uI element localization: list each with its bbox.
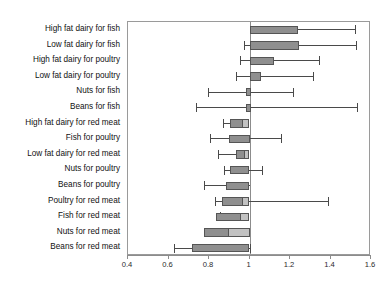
x-axis-tick-label: 0.8 [203, 260, 214, 269]
ci-lower-cap [244, 41, 245, 50]
y-axis-label: Beans for poultry [58, 177, 120, 193]
x-axis-tick-label: 1 [246, 260, 250, 269]
ci-lower-cap [208, 88, 209, 97]
forest-plot-row [128, 84, 369, 100]
ci-upper-cap [293, 88, 294, 97]
forest-plot-row [128, 100, 369, 116]
effect-bar-inner [223, 198, 243, 204]
ci-lower-cap [215, 197, 216, 206]
x-axis-tick-label: 1.2 [284, 260, 295, 269]
ci-lower-cap [204, 181, 205, 190]
ci-lower-cap [196, 103, 197, 112]
effect-bar [226, 182, 249, 190]
plot-inner [128, 22, 369, 254]
y-axis-label: Poultry for red meat [48, 193, 120, 209]
effect-bar [230, 166, 249, 174]
forest-plot-row [128, 209, 369, 225]
ci-upper-cap [355, 25, 356, 34]
x-axis-tick-label: 1.6 [365, 260, 376, 269]
ci-lower-cap [210, 134, 211, 143]
y-axis-label: Nuts for red meat [57, 224, 120, 240]
ci-lower-cap [224, 166, 225, 175]
effect-bar [230, 119, 249, 127]
forest-plot-row [128, 116, 369, 132]
ci-upper-cap [313, 72, 314, 81]
confidence-interval-line [236, 76, 313, 77]
forest-plot-row [128, 147, 369, 163]
ci-upper-cap [250, 244, 251, 253]
ci-lower-cap [236, 72, 237, 81]
forest-plot-row [128, 38, 369, 54]
ci-upper-cap [357, 103, 358, 112]
effect-bar-inner [205, 229, 229, 235]
forest-plot-row [128, 162, 369, 178]
ci-upper-cap [262, 166, 263, 175]
x-axis-tick [127, 255, 128, 259]
x-axis-tick-label: 1.4 [324, 260, 335, 269]
effect-bar [250, 26, 299, 34]
plot-area [127, 21, 370, 255]
effect-bar [246, 104, 250, 112]
effect-bar [250, 41, 300, 49]
effect-bar [250, 72, 261, 80]
confidence-interval-line [196, 107, 357, 108]
x-axis-tick [208, 255, 209, 259]
forest-plot-row [128, 178, 369, 194]
y-axis-label: Low fat dairy for red meat [27, 146, 120, 162]
y-axis-category-labels: High fat dairy for fishLow fat dairy for… [0, 21, 124, 255]
y-axis-label: High fat dairy for red meat [25, 115, 120, 131]
ci-lower-cap [218, 150, 219, 159]
y-axis-label: High fat dairy for fish [45, 21, 120, 37]
effect-bar-inner [231, 120, 243, 126]
x-axis-tick [289, 255, 290, 259]
ci-lower-cap [223, 119, 224, 128]
effect-bar-inner [237, 151, 245, 157]
effect-bar [216, 213, 249, 221]
effect-bar [204, 228, 250, 236]
forest-plot-row [128, 53, 369, 69]
ci-lower-cap [174, 244, 175, 253]
effect-bar [222, 197, 249, 205]
y-axis-label: Fish for red meat [58, 208, 120, 224]
y-axis-label: Fish for poultry [66, 130, 120, 146]
effect-bar [236, 150, 249, 158]
forest-plot-row [128, 69, 369, 85]
x-axis-tick-label: 0.4 [122, 260, 133, 269]
ci-upper-cap [356, 41, 357, 50]
ci-upper-cap [281, 134, 282, 143]
forest-plot-row [128, 225, 369, 241]
y-axis-label: Low fat dairy for poultry [35, 68, 120, 84]
y-axis-label: Low fat dairy for fish [47, 37, 120, 53]
confidence-interval-line [208, 92, 293, 93]
forest-plot-row [128, 240, 369, 256]
forest-plot-row [128, 131, 369, 147]
ci-lower-cap [240, 56, 241, 65]
ci-upper-cap [319, 56, 320, 65]
x-axis-tick [249, 255, 250, 259]
forest-plot-figure: High fat dairy for fishLow fat dairy for… [0, 0, 386, 284]
y-axis-label: Nuts for fish [76, 83, 120, 99]
y-axis-label: Beans for fish [70, 99, 120, 115]
ci-upper-cap [328, 197, 329, 206]
forest-plot-row [128, 22, 369, 38]
x-axis-tick [168, 255, 169, 259]
y-axis-label: Beans for red meat [50, 239, 120, 255]
effect-bar [246, 88, 250, 96]
forest-plot-row [128, 194, 369, 210]
x-axis-tick-label: 0.6 [162, 260, 173, 269]
effect-bar [229, 135, 249, 143]
x-axis-tick [330, 255, 331, 259]
effect-bar-inner [217, 214, 241, 220]
effect-bar [192, 244, 250, 252]
x-axis-tick [370, 255, 371, 259]
y-axis-label: Nuts for poultry [64, 161, 120, 177]
effect-bar [250, 57, 274, 65]
y-axis-label: High fat dairy for poultry [33, 52, 120, 68]
